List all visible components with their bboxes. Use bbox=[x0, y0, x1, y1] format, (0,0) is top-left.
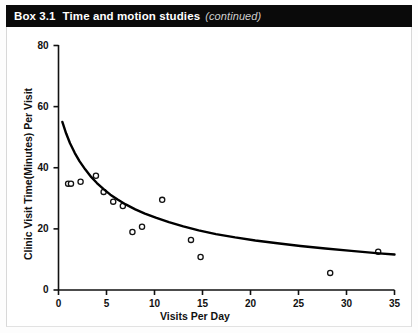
scatter-chart: Clinic Visit Time(Minutes) Per Visit Vis… bbox=[0, 0, 418, 333]
data-point bbox=[130, 229, 135, 234]
data-point bbox=[139, 224, 144, 229]
y-tick-label: 0 bbox=[23, 284, 49, 295]
data-point bbox=[328, 270, 333, 275]
data-point bbox=[160, 197, 165, 202]
data-point bbox=[93, 173, 98, 178]
x-tick-label: 10 bbox=[142, 298, 168, 309]
x-tick-label: 5 bbox=[94, 298, 120, 309]
x-tick-label: 15 bbox=[190, 298, 216, 309]
y-tick-label: 80 bbox=[23, 40, 49, 51]
x-tick-label: 20 bbox=[238, 298, 264, 309]
data-point bbox=[188, 237, 193, 242]
data-point-group bbox=[66, 173, 381, 275]
x-tick-label: 35 bbox=[382, 298, 408, 309]
y-tick-label: 20 bbox=[23, 223, 49, 234]
x-tick-label: 30 bbox=[334, 298, 360, 309]
page-canvas: Box 3.1 Time and motion studies (continu… bbox=[0, 0, 418, 333]
y-tick-label: 60 bbox=[23, 101, 49, 112]
x-tick-label: 25 bbox=[286, 298, 312, 309]
x-axis-title: Visits Per Day bbox=[160, 310, 230, 322]
data-point bbox=[68, 181, 73, 186]
fitted-curve bbox=[62, 122, 394, 255]
data-point bbox=[78, 179, 83, 184]
data-point bbox=[111, 199, 116, 204]
y-tick-label: 40 bbox=[23, 162, 49, 173]
chart-svg bbox=[0, 0, 418, 333]
data-point bbox=[198, 254, 203, 259]
x-tick-label: 0 bbox=[46, 298, 72, 309]
